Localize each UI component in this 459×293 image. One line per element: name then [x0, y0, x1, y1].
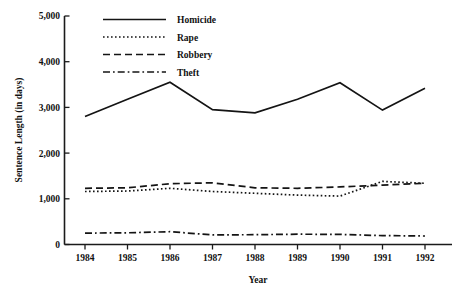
y-tick-label: 1,000: [39, 194, 61, 204]
x-tick-label: 1988: [246, 253, 265, 263]
x-tick-label: 1991: [373, 253, 392, 263]
x-axis-title: Year: [249, 275, 269, 285]
series-group: [85, 82, 425, 236]
x-tick-label: 1989: [288, 253, 307, 263]
x-tick-label: 1985: [118, 253, 137, 263]
legend-label-homicide: Homicide: [177, 15, 216, 25]
series-line-theft: [85, 232, 425, 236]
series-line-homicide: [85, 82, 425, 116]
legend-label-rape: Rape: [177, 33, 198, 43]
series-line-rape: [85, 181, 425, 196]
y-tick-label: 2,000: [39, 149, 61, 159]
chart-legend: HomicideRapeRobberyTheft: [103, 15, 216, 78]
y-tick-label: 3,000: [39, 103, 61, 113]
series-line-robbery: [85, 183, 425, 189]
y-axis-tick-labels: 01,0002,0003,0004,0005,000: [39, 11, 61, 250]
y-tick-label: 5,000: [39, 11, 61, 21]
x-axis-tick-labels: 198419851986198719881989199019911992: [76, 253, 435, 263]
y-tick-label: 0: [55, 240, 60, 250]
x-tick-label: 1992: [416, 253, 435, 263]
x-tick-label: 1984: [76, 253, 95, 263]
line-chart: 01,0002,0003,0004,0005,000 1984198519861…: [0, 0, 459, 293]
legend-label-theft: Theft: [177, 68, 200, 78]
x-tick-label: 1987: [203, 253, 222, 263]
y-tick-label: 4,000: [39, 57, 61, 67]
chart-canvas: 01,0002,0003,0004,0005,000 1984198519861…: [0, 0, 459, 293]
legend-label-robbery: Robbery: [177, 50, 213, 60]
x-tick-label: 1990: [331, 253, 350, 263]
y-axis-title: Sentence Length (in days): [14, 78, 25, 183]
x-tick-label: 1986: [161, 253, 180, 263]
